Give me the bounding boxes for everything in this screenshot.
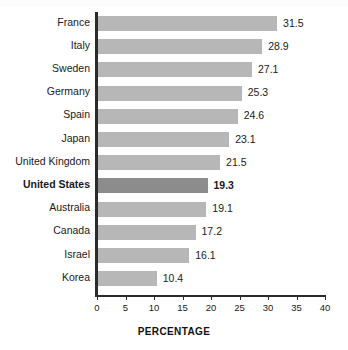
- bar-category-label: Israel: [0, 248, 90, 261]
- bar-value-label: 24.6: [244, 109, 264, 122]
- bar-row: Japan23.1: [0, 129, 348, 152]
- x-axis-tick: [297, 295, 298, 300]
- bar-value-label: 19.3: [214, 179, 234, 192]
- bar-value-label: 31.5: [283, 17, 303, 30]
- x-axis-tick: [154, 295, 155, 300]
- bar-row: Germany25.3: [0, 82, 348, 105]
- plot-area: France31.5Italy28.9Sweden27.1Germany25.3…: [0, 0, 348, 296]
- x-axis-tick: [268, 295, 269, 300]
- bar: [98, 178, 208, 193]
- bar-row: Israel16.1: [0, 245, 348, 268]
- bar: [98, 132, 230, 147]
- bar: [98, 248, 190, 263]
- x-axis-tick: [183, 295, 184, 300]
- x-axis-tick: [240, 295, 241, 300]
- bar-value-label: 19.1: [212, 202, 232, 215]
- bar-chart: France31.5Italy28.9Sweden27.1Germany25.3…: [0, 0, 348, 350]
- bar-category-label: Sweden: [0, 62, 90, 75]
- bar-row: France31.5: [0, 13, 348, 36]
- bar-value-label: 10.4: [163, 272, 183, 285]
- x-axis-tick: [325, 295, 326, 300]
- bar-row: Korea10.4: [0, 268, 348, 291]
- bar-category-label: United States: [0, 178, 90, 191]
- x-axis-title: PERCENTAGE: [0, 326, 348, 337]
- bar: [98, 86, 242, 101]
- bar-row: Australia19.1: [0, 198, 348, 221]
- bar-row: Spain24.6: [0, 105, 348, 128]
- bar-category-label: Canada: [0, 224, 90, 237]
- bar-row: Sweden27.1: [0, 59, 348, 82]
- bar-category-label: Japan: [0, 132, 90, 145]
- bar-value-label: 23.1: [235, 133, 255, 146]
- bar-category-label: Germany: [0, 85, 90, 98]
- bar-value-label: 25.3: [248, 86, 268, 99]
- bar: [98, 39, 263, 54]
- bar: [98, 155, 221, 170]
- bar-category-label: Australia: [0, 201, 90, 214]
- bar-value-label: 21.5: [226, 156, 246, 169]
- bar-row: United Kingdom21.5: [0, 152, 348, 175]
- bar: [98, 202, 207, 217]
- bar-category-label: France: [0, 16, 90, 29]
- x-axis-tick-label: 40: [305, 302, 345, 314]
- bar-value-label: 27.1: [258, 63, 278, 76]
- bar: [98, 271, 157, 286]
- bar-row: United States19.3: [0, 175, 348, 198]
- bar-category-label: Korea: [0, 271, 90, 284]
- bar: [98, 16, 278, 31]
- x-axis-tick: [126, 295, 127, 300]
- bar-row: Italy28.9: [0, 36, 348, 59]
- bar-category-label: United Kingdom: [0, 155, 90, 168]
- bar: [98, 225, 196, 240]
- bar-value-label: 16.1: [195, 249, 215, 262]
- x-axis-tick: [211, 295, 212, 300]
- bar: [98, 62, 252, 77]
- bar-category-label: Italy: [0, 39, 90, 52]
- bar-value-label: 17.2: [202, 225, 222, 238]
- bar: [98, 109, 238, 124]
- bar-category-label: Spain: [0, 108, 90, 121]
- bar-row: Canada17.2: [0, 221, 348, 244]
- bar-value-label: 28.9: [268, 40, 288, 53]
- x-axis-tick: [97, 295, 98, 300]
